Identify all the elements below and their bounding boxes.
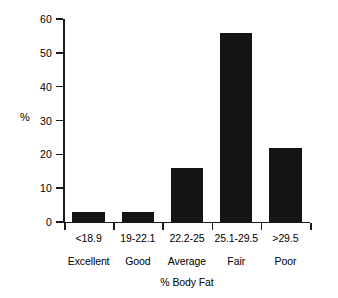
bar <box>122 212 154 222</box>
y-tick-mark <box>56 52 63 54</box>
y-tick-mark <box>56 18 63 20</box>
x-axis-range-label: <18.9 <box>64 232 113 245</box>
y-tick-label: 30 <box>18 115 52 127</box>
bar <box>220 33 252 222</box>
y-tick-label: 60 <box>18 13 52 25</box>
x-axis-category-label: Good <box>113 255 162 268</box>
bar <box>72 212 104 222</box>
x-tick-mark <box>162 223 164 230</box>
y-tick-mark <box>56 154 63 156</box>
x-axis-range-label: >29.5 <box>261 232 310 245</box>
y-tick-mark <box>56 221 63 223</box>
x-axis-category-label: Poor <box>261 255 310 268</box>
x-tick-mark <box>64 223 66 230</box>
y-tick-label: 40 <box>18 81 52 93</box>
x-axis-line <box>63 222 310 224</box>
x-tick-mark <box>261 223 263 230</box>
bar-chart-figure: % 0102030405060 <18.9Excellent19-22.1Goo… <box>0 0 338 298</box>
x-axis-category-label: Excellent <box>64 255 113 268</box>
bar <box>171 168 203 222</box>
bar <box>269 148 301 222</box>
y-tick-mark <box>56 187 63 189</box>
plot-area <box>64 19 310 222</box>
x-axis-range-label: 22.2-25 <box>162 232 211 245</box>
x-axis-title: % Body Fat <box>64 276 310 289</box>
y-tick-label: 10 <box>18 182 52 194</box>
x-axis-range-label: 25.1-29.5 <box>212 232 261 245</box>
y-tick-mark <box>56 120 63 122</box>
x-tick-mark <box>310 223 312 230</box>
x-tick-mark <box>212 223 214 230</box>
x-axis-category-label: Fair <box>212 255 261 268</box>
x-tick-mark <box>113 223 115 230</box>
y-tick-label: 50 <box>18 47 52 59</box>
y-tick-mark <box>56 86 63 88</box>
x-axis-range-label: 19-22.1 <box>113 232 162 245</box>
x-axis-category-label: Average <box>162 255 211 268</box>
y-tick-label: 0 <box>18 216 52 228</box>
y-tick-label: 20 <box>18 148 52 160</box>
